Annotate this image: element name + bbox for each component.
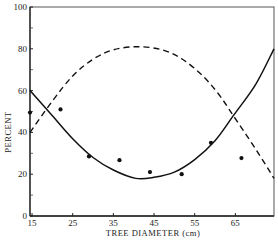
y-axis-title: PERCENT (3, 111, 13, 153)
plot-border (30, 7, 274, 216)
data-point (180, 172, 184, 176)
y-tick-label: 40 (18, 127, 28, 137)
data-point (117, 158, 121, 162)
plot-frame (30, 7, 274, 216)
data-point (209, 141, 213, 145)
series-layer (28, 47, 274, 179)
x-tick-label: 55 (190, 218, 200, 228)
x-tick-label: 45 (150, 218, 160, 228)
dashed-fit-curve (30, 47, 274, 179)
x-tick-label: 65 (231, 218, 241, 228)
solid-fit-curve (30, 49, 274, 179)
y-tick-label: 60 (18, 86, 28, 96)
x-axis: 152535455565 (28, 213, 274, 228)
x-axis-title: TREE DIAMETER (cm) (106, 228, 200, 238)
x-tick-label: 35 (109, 218, 119, 228)
y-tick-label: 100 (14, 2, 28, 12)
data-point (148, 170, 152, 174)
chart: 020406080100 152535455565 TREE DIAMETER … (0, 0, 278, 241)
y-tick-label: 80 (18, 44, 28, 54)
data-point (58, 107, 62, 111)
data-point (239, 156, 243, 160)
data-point (87, 154, 91, 158)
x-tick-label: 25 (68, 218, 78, 228)
data-point (28, 110, 32, 114)
y-tick-label: 20 (18, 169, 28, 179)
x-tick-label: 15 (28, 218, 38, 228)
